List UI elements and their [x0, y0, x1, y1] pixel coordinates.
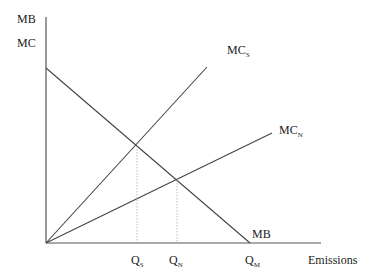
mcs-curve — [46, 67, 207, 243]
x-axis-label: Emissions — [308, 253, 358, 267]
mb-curve — [46, 68, 250, 243]
y-axis-label-mc: MC — [17, 36, 36, 50]
y-axis-label-mb: MB — [17, 12, 36, 26]
mcn-curve — [46, 133, 272, 243]
qn-label: QN — [169, 253, 183, 269]
qs-label: QS — [131, 253, 144, 269]
diagram-canvas: MB MC MCS MCN MB QS QN QM Emissions — [0, 0, 371, 277]
mcs-label: MCS — [227, 43, 250, 59]
qm-label: QM — [245, 253, 261, 269]
mb-label: MB — [252, 227, 271, 241]
mcn-label: MCN — [279, 123, 303, 139]
